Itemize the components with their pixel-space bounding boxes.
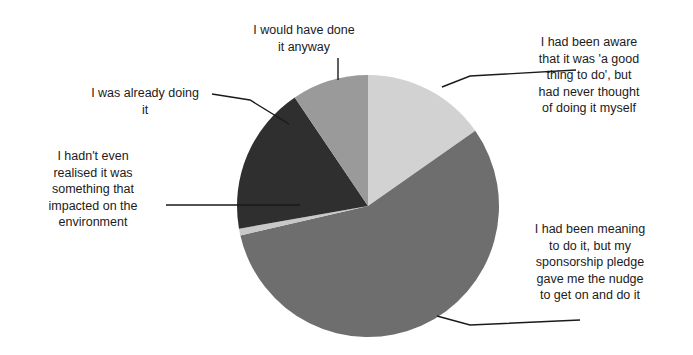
slice-label-would-have-done: I would have done it anyway xyxy=(216,22,392,55)
slice-label-already-doing: I was already doing it xyxy=(62,85,228,118)
pie-slice-group xyxy=(237,75,499,337)
slice-label-aware: I had been aware that it was 'a good thi… xyxy=(496,34,682,117)
slice-label-not-realised: I hadn't even realised it was something … xyxy=(18,148,168,231)
slice-label-meaning: I had been meaning to do it, but my spon… xyxy=(496,221,684,304)
pie-chart-figure: I had been aware that it was 'a good thi… xyxy=(0,0,693,355)
leader-line-meaning xyxy=(437,316,580,325)
